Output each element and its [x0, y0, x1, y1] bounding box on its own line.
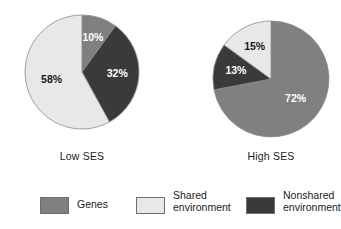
legend-swatch-genes [40, 197, 69, 214]
pie-chart-low-ses: 10%32%58% [14, 0, 154, 146]
legend-item-nonshared-environment: Nonshared environment [246, 188, 341, 214]
legend-swatch-nonshared-environment [246, 197, 275, 214]
legend-label-shared-environment: Shared environment [173, 188, 231, 213]
legend: Genes Shared environment Nonshared envir… [0, 188, 333, 229]
pie-caption-low-ses: Low SES [22, 150, 142, 162]
charts-row: 10%32%58% Low SES 72%13%15% High SES [0, 0, 333, 178]
pie-slice-label: 15% [244, 40, 266, 52]
legend-label-genes: Genes [77, 188, 108, 210]
legend-label-nonshared-environment: Nonshared environment [283, 188, 341, 213]
pie-slice-label: 13% [225, 64, 247, 76]
pie-panel-low-ses: 10%32%58% Low SES [14, 0, 154, 146]
pie-slice-label: 32% [107, 67, 129, 79]
legend-swatch-shared-environment [136, 197, 165, 214]
legend-item-genes: Genes [40, 188, 108, 214]
pie-chart-high-ses: 72%13%15% [200, 0, 340, 146]
pie-slice-label: 10% [82, 31, 104, 43]
pie-slice-label: 58% [41, 73, 63, 85]
pie-caption-high-ses: High SES [211, 150, 331, 162]
pie-panel-high-ses: 72%13%15% High SES [200, 0, 340, 146]
pie-slice-label: 72% [285, 92, 307, 104]
legend-item-shared-environment: Shared environment [136, 188, 231, 214]
